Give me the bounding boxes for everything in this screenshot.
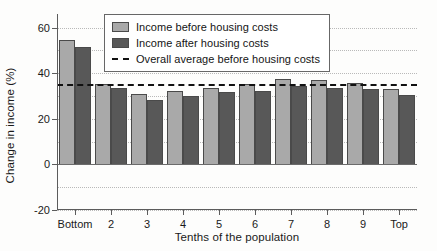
x-axis-title: Tenths of the population (57, 231, 417, 243)
x-tick-label: 5 (216, 218, 222, 230)
bar (399, 95, 415, 165)
bar (131, 94, 147, 165)
x-tick-mark (363, 210, 364, 215)
x-tick-mark (399, 210, 400, 215)
bar (363, 89, 379, 166)
x-tick-label: 9 (360, 218, 366, 230)
x-tick-mark (183, 210, 184, 215)
x-tick-mark (291, 210, 292, 215)
bar (239, 84, 255, 165)
x-tick-label: 8 (324, 218, 330, 230)
x-tick-label: 6 (252, 218, 258, 230)
x-tick-label: 4 (180, 218, 186, 230)
bar (347, 83, 363, 166)
x-tick-mark (327, 210, 328, 215)
legend-label-before: Income before housing costs (136, 21, 278, 33)
bar (383, 89, 399, 165)
x-tick-mark (255, 210, 256, 215)
gridline (57, 73, 417, 75)
legend-dashed-line-icon (112, 58, 129, 60)
x-tick-label: 7 (288, 218, 294, 230)
legend-item-after: Income after housing costs (112, 35, 320, 50)
bar (167, 91, 183, 166)
y-tick-label: 40 (38, 67, 50, 79)
legend-swatch-before-icon (112, 22, 129, 32)
y-tick-label: -20 (34, 204, 50, 216)
x-tick-label: 3 (144, 218, 150, 230)
zero-axis-line (57, 164, 417, 165)
chart-legend: Income before housing costs Income after… (104, 14, 330, 72)
y-tick-label: 60 (38, 22, 50, 34)
bar (311, 80, 327, 166)
bar (327, 88, 343, 166)
bar (255, 91, 271, 166)
gridline (57, 187, 417, 189)
bar-chart-figure: Change in income (%) Tenths of the popul… (0, 0, 437, 251)
bar (183, 96, 199, 166)
legend-label-after: Income after housing costs (136, 37, 269, 49)
bar (147, 100, 163, 166)
x-tick-mark (111, 210, 112, 215)
bar (203, 88, 219, 166)
bar (291, 86, 307, 165)
x-tick-label: 2 (108, 218, 114, 230)
bar (219, 92, 235, 165)
legend-item-before: Income before housing costs (112, 19, 320, 34)
x-tick-label: Top (390, 218, 408, 230)
legend-label-average: Overall average before housing costs (136, 53, 320, 65)
bar (59, 40, 75, 165)
bar (275, 79, 291, 166)
y-tick-label: 0 (44, 158, 50, 170)
x-tick-label: Bottom (58, 218, 93, 230)
legend-swatch-after-icon (112, 38, 129, 48)
y-axis-spine (57, 14, 58, 210)
bar (75, 47, 91, 165)
x-tick-mark (147, 210, 148, 215)
bar (95, 84, 111, 165)
legend-item-average: Overall average before housing costs (112, 51, 320, 66)
y-tick-label: 20 (38, 113, 50, 125)
x-tick-mark (75, 210, 76, 215)
x-tick-mark (219, 210, 220, 215)
y-axis-title: Change in income (%) (0, 0, 20, 251)
y-tick-mark (52, 210, 57, 211)
average-reference-line (57, 84, 417, 86)
bar (111, 88, 127, 166)
